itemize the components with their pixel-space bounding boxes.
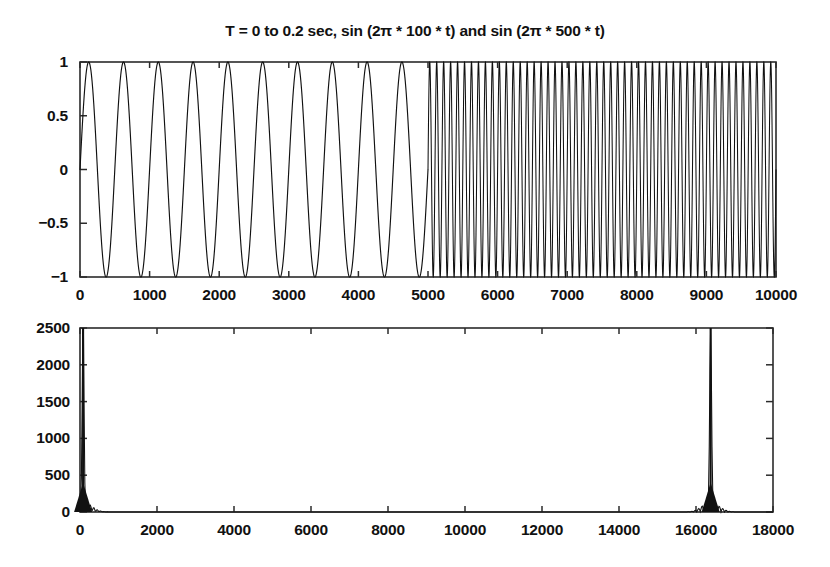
- x-tick-label: 8000: [620, 286, 654, 304]
- x-tick-label: 10000: [755, 286, 797, 304]
- y-tick-label-bottom: 1500: [36, 393, 70, 411]
- x-tick-label-bottom: 14000: [598, 521, 640, 539]
- x-tick-label-bottom: 16000: [675, 521, 717, 539]
- waveform-low-frequency: [80, 62, 428, 277]
- y-tick-label-bottom: 0: [62, 503, 70, 521]
- x-tick-label-bottom: 12000: [521, 521, 563, 539]
- plot-frame: [80, 328, 773, 512]
- y-tick-label-bottom: 1000: [36, 429, 70, 447]
- time-domain-plot: [0, 0, 830, 300]
- spectrum-trace: [80, 328, 773, 512]
- y-tick-label-bottom: 500: [45, 466, 70, 484]
- y-tick-label: 0.5: [47, 107, 68, 125]
- y-tick-label: −1: [51, 268, 68, 286]
- x-tick-label-bottom: 6000: [294, 521, 328, 539]
- x-tick-label-bottom: 8000: [371, 521, 405, 539]
- time-domain-svg: [0, 0, 830, 300]
- y-tick-label: 0: [60, 161, 68, 179]
- figure-container: T = 0 to 0.2 sec, sin (2π * 100 * t) and…: [0, 0, 830, 567]
- x-tick-label-bottom: 18000: [752, 521, 794, 539]
- x-tick-label: 5000: [411, 286, 445, 304]
- x-tick-label-bottom: 10000: [444, 521, 486, 539]
- x-tick-label: 7000: [550, 286, 584, 304]
- x-tick-label: 4000: [342, 286, 376, 304]
- x-tick-label-bottom: 0: [76, 521, 84, 539]
- x-tick-label: 2000: [202, 286, 236, 304]
- x-tick-label-bottom: 2000: [140, 521, 174, 539]
- x-tick-label: 1000: [133, 286, 167, 304]
- x-tick-label: 9000: [690, 286, 724, 304]
- y-tick-label: −0.5: [38, 214, 68, 232]
- x-tick-label: 6000: [481, 286, 515, 304]
- spectrum-peak-base: [702, 483, 720, 512]
- x-tick-label: 0: [76, 286, 84, 304]
- y-tick-label-bottom: 2500: [36, 319, 70, 337]
- y-tick-label: 1: [60, 53, 68, 71]
- x-tick-label: 3000: [272, 286, 306, 304]
- x-tick-label-bottom: 4000: [217, 521, 251, 539]
- waveform-high-frequency: [428, 62, 776, 277]
- y-tick-label-bottom: 2000: [36, 356, 70, 374]
- spectrum-peak-base: [74, 483, 92, 512]
